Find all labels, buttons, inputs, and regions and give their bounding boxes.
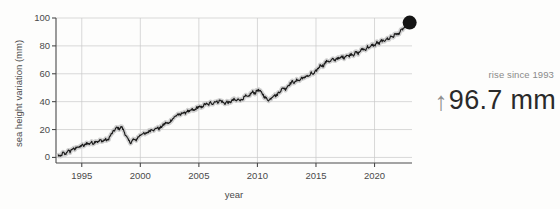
up-arrow-icon: ↑ bbox=[435, 86, 448, 116]
endpoint-marker bbox=[403, 16, 417, 30]
y-tick-label: 40 bbox=[24, 96, 50, 107]
x-tick-label: 2005 bbox=[179, 170, 219, 181]
y-tick-label: 20 bbox=[24, 124, 50, 135]
x-tick-label: 2010 bbox=[237, 170, 277, 181]
x-tick-label: 2000 bbox=[120, 170, 160, 181]
chart-plot-region: sea height variation (mm) year 020406080… bbox=[0, 0, 420, 209]
sea-level-chart-figure: sea height variation (mm) year 020406080… bbox=[0, 0, 560, 209]
x-axis-label: year bbox=[56, 189, 412, 200]
rise-value-text: 96.7 mm bbox=[449, 84, 556, 116]
y-tick-label: 60 bbox=[24, 68, 50, 79]
x-tick-label: 1995 bbox=[62, 170, 102, 181]
y-tick-label: 0 bbox=[24, 151, 50, 162]
rise-caption: rise since 1993 bbox=[489, 69, 554, 80]
x-tick-label: 2015 bbox=[296, 170, 336, 181]
y-axis-label: sea height variation (mm) bbox=[13, 24, 24, 164]
y-tick-label: 80 bbox=[24, 40, 50, 51]
rise-value-row: ↑96.7 mm bbox=[435, 84, 556, 116]
y-tick-label: 100 bbox=[24, 12, 50, 23]
rise-annotation: rise since 1993 ↑96.7 mm bbox=[422, 0, 560, 209]
x-tick-label: 2020 bbox=[355, 170, 395, 181]
